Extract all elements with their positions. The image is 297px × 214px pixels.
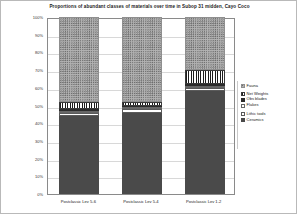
legend-swatch-icon: [241, 84, 245, 88]
legend-label: Fauna: [247, 84, 258, 89]
chart-title: Proportions of abundant classes of mater…: [1, 4, 297, 9]
bar-segment-fauna[interactable]: [185, 17, 225, 70]
bar-segment-lithic[interactable]: [185, 88, 225, 92]
bar-segment-fauna[interactable]: [59, 17, 99, 102]
legend-divider: [237, 81, 238, 149]
chart-legend: FaunaNet WeightsObs bladesFlakesLithic t…: [241, 84, 295, 123]
bar-segment-ceramics[interactable]: [185, 91, 225, 194]
bar-segment-flakes[interactable]: [122, 107, 162, 109]
legend-item[interactable]: Flakes: [241, 103, 295, 108]
legend-swatch-icon: [241, 112, 245, 116]
bar-segment-netweights[interactable]: [185, 70, 225, 84]
y-axis-tick-label: 50%: [21, 105, 43, 109]
legend-swatch-icon: [241, 118, 245, 122]
y-axis-tick-label: 70%: [21, 69, 43, 73]
y-axis-tick-label: 100%: [21, 16, 43, 20]
y-axis-tick-label: 10%: [21, 175, 43, 179]
legend-label: Ceramics: [247, 118, 264, 123]
y-axis-tick-label: 40%: [21, 122, 43, 126]
bar-segment-flakes[interactable]: [59, 111, 99, 113]
y-axis-tick-label: 30%: [21, 140, 43, 144]
bar-segment-ceramics[interactable]: [59, 116, 99, 194]
bar-segment-lithic[interactable]: [59, 113, 99, 117]
plot-area: [47, 18, 235, 195]
legend-swatch-icon: [241, 92, 245, 96]
legend-item[interactable]: Fauna: [241, 84, 295, 89]
x-axis-label: Postclassic Lev 1-2: [164, 199, 244, 204]
legend-item[interactable]: Lithic tools: [241, 112, 295, 117]
legend-label: Flakes: [247, 103, 259, 108]
legend-swatch-icon: [241, 104, 245, 108]
y-axis-tick-label: 20%: [21, 158, 43, 162]
bar-segment-obsidian[interactable]: [185, 84, 225, 86]
bar-segment-flakes[interactable]: [185, 86, 225, 88]
bar-segment-netweights[interactable]: [59, 102, 99, 109]
y-axis-tick-label: 0%: [21, 193, 43, 197]
chart-container: Proportions of abundant classes of mater…: [0, 0, 297, 214]
stacked-bar[interactable]: [185, 17, 225, 194]
y-axis-tick-label: 60%: [21, 87, 43, 91]
bar-segment-netweights[interactable]: [122, 102, 162, 106]
bar-segment-lithic[interactable]: [122, 109, 162, 113]
legend-label: Lithic tools: [247, 112, 266, 117]
y-axis-tick-label: 80%: [21, 51, 43, 55]
legend-item[interactable]: Ceramics: [241, 118, 295, 123]
stacked-bar[interactable]: [122, 17, 162, 194]
bar-segment-fauna[interactable]: [122, 17, 162, 102]
stacked-bar[interactable]: [59, 17, 99, 194]
bar-segment-ceramics[interactable]: [122, 113, 162, 194]
bar-segment-obsidian[interactable]: [122, 106, 162, 108]
bar-segment-obsidian[interactable]: [59, 109, 99, 111]
y-axis-tick-label: 90%: [21, 34, 43, 38]
legend-swatch-icon: [241, 98, 245, 102]
